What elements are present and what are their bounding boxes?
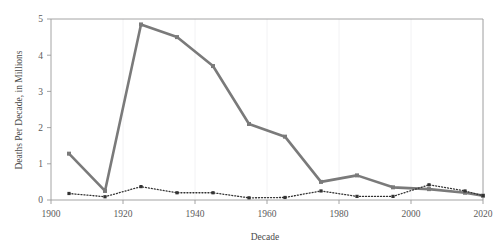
y-tick-label: 2 xyxy=(38,123,43,133)
data-point-marker xyxy=(211,191,214,194)
data-point-marker xyxy=(139,185,142,188)
x-tick-label: 1980 xyxy=(330,209,349,219)
y-tick-label: 0 xyxy=(38,195,43,205)
data-point-marker xyxy=(103,189,107,193)
series-line xyxy=(69,24,483,195)
chart-container: 012345 1900192019401960198020002020 Deca… xyxy=(0,0,495,248)
x-tick-label: 2020 xyxy=(474,209,493,219)
x-tick-label: 1960 xyxy=(258,209,277,219)
series-line xyxy=(69,185,483,198)
line-chart: 012345 1900192019401960198020002020 Deca… xyxy=(0,0,495,248)
data-point-marker xyxy=(211,64,215,68)
data-point-marker xyxy=(283,135,287,139)
data-point-marker xyxy=(481,194,484,197)
data-point-marker xyxy=(247,122,251,126)
data-point-marker xyxy=(67,192,70,195)
data-point-marker xyxy=(175,35,179,39)
data-point-marker xyxy=(391,195,394,198)
data-point-marker xyxy=(319,189,322,192)
data-point-marker xyxy=(319,180,323,184)
x-tick-label: 1900 xyxy=(42,209,61,219)
data-point-marker xyxy=(463,189,466,192)
x-axis-title: Decade xyxy=(251,232,279,242)
data-point-marker xyxy=(67,152,71,156)
y-tick-label: 5 xyxy=(38,14,43,24)
data-point-marker xyxy=(427,187,431,191)
gridlines xyxy=(123,19,483,200)
data-point-marker xyxy=(103,195,106,198)
y-tick-labels: 012345 xyxy=(38,14,51,205)
series-dotted-series xyxy=(67,183,484,199)
data-point-marker xyxy=(247,196,250,199)
y-tick-label: 4 xyxy=(38,51,43,61)
x-tick-label: 1940 xyxy=(186,209,205,219)
y-tick-label: 3 xyxy=(38,87,43,97)
data-point-marker xyxy=(355,195,358,198)
data-point-marker xyxy=(175,191,178,194)
series-layer xyxy=(67,22,485,199)
series-solid-series xyxy=(67,22,485,197)
data-point-marker xyxy=(391,185,395,189)
x-tick-label: 1920 xyxy=(114,209,133,219)
y-tick-label: 1 xyxy=(38,159,43,169)
data-point-marker xyxy=(427,183,430,186)
data-point-marker xyxy=(283,196,286,199)
data-point-marker xyxy=(355,173,359,177)
x-tick-label: 2000 xyxy=(402,209,421,219)
y-axis-title: Deaths Per Decade, in Millions xyxy=(14,50,24,169)
data-point-marker xyxy=(139,22,143,26)
x-tick-labels: 1900192019401960198020002020 xyxy=(42,200,493,219)
